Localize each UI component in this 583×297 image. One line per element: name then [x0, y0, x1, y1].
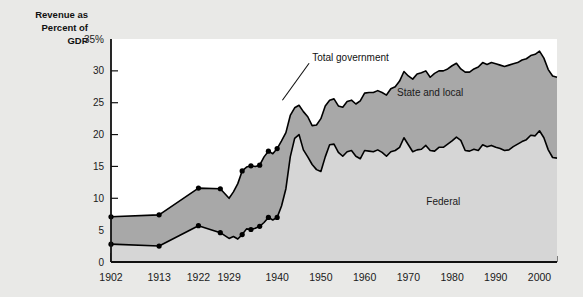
- data-point-marker: [218, 186, 223, 191]
- data-point-marker: [275, 146, 280, 151]
- x-tick-label: 1960: [353, 271, 377, 283]
- data-point-marker: [156, 212, 161, 217]
- x-axis-tick-labels: 1902191319221929194019501960197019801990…: [99, 271, 551, 283]
- y-tick-label: 5: [98, 225, 104, 236]
- y-tick-label: 25: [93, 97, 105, 108]
- data-point-marker: [248, 227, 253, 232]
- x-tick-label: 1922: [187, 271, 211, 283]
- data-point-marker: [248, 163, 253, 168]
- y-tick-label: 20: [93, 129, 105, 140]
- x-tick-label: 1950: [309, 271, 333, 283]
- data-point-marker: [240, 232, 245, 237]
- y-tick-label: 15: [93, 161, 105, 172]
- y-axis-title-line2: Percent of: [42, 22, 89, 33]
- x-tick-label: 1990: [484, 271, 508, 283]
- data-point-marker: [275, 215, 280, 220]
- annotation-label: State and local: [397, 87, 463, 98]
- data-point-marker: [240, 168, 245, 173]
- data-point-marker: [156, 243, 161, 248]
- x-tick-label: 2000: [528, 271, 552, 283]
- data-point-marker: [266, 215, 271, 220]
- data-point-marker: [196, 223, 201, 228]
- x-tick-label: 1940: [265, 271, 289, 283]
- data-point-marker: [218, 230, 223, 235]
- y-tick-label: 10: [93, 193, 105, 204]
- x-tick-label: 1929: [217, 271, 241, 283]
- chart-page: Revenue as Percent of GDP 05101520253035…: [0, 0, 583, 297]
- x-tick-label: 1970: [397, 271, 421, 283]
- y-axis-title-line1: Revenue as: [35, 9, 88, 20]
- data-point-marker: [196, 185, 201, 190]
- x-tick-label: 1980: [440, 271, 464, 283]
- y-tick-label: 0: [98, 257, 104, 268]
- data-point-marker: [266, 149, 271, 154]
- annotation-label: Federal: [426, 196, 460, 207]
- y-tick-label: 30: [93, 65, 105, 76]
- x-tick-label: 1902: [99, 271, 123, 283]
- x-tick-label: 1913: [147, 271, 171, 283]
- y-tick-label: 35%: [84, 34, 104, 45]
- annotation-label: Total government: [312, 52, 389, 63]
- data-point-marker: [257, 224, 262, 229]
- data-point-marker: [257, 163, 262, 168]
- revenue-gdp-area-chart: Revenue as Percent of GDP 05101520253035…: [0, 0, 583, 297]
